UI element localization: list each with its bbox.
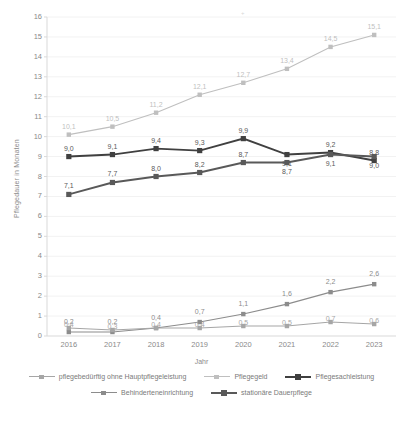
data-point-marker xyxy=(241,312,245,316)
data-label: 0,6 xyxy=(357,317,391,324)
data-label: 14,5 xyxy=(314,35,348,42)
data-label: 9,1 xyxy=(270,160,304,167)
data-label: 0,7 xyxy=(183,308,217,315)
data-label: 9,2 xyxy=(314,141,348,148)
legend: pflegebedürftig ohne Hauptpflegeleistung… xyxy=(0,372,403,404)
data-point-marker xyxy=(285,67,289,71)
data-point-marker xyxy=(66,192,71,197)
legend-marker-icon xyxy=(91,388,117,397)
legend-label: pflegebedürftig ohne Hauptpflegeleistung xyxy=(59,373,187,380)
data-point-marker xyxy=(197,148,202,153)
data-point-marker xyxy=(372,33,376,37)
data-label: 10,5 xyxy=(95,115,129,122)
legend-row-1: pflegebedürftig ohne Hauptpflegeleistung… xyxy=(0,372,403,381)
data-label: 2,2 xyxy=(314,278,348,285)
data-label: 8,0 xyxy=(139,165,173,172)
data-label: 0,4 xyxy=(52,321,86,328)
data-label: 15,1 xyxy=(357,23,391,30)
data-point-marker xyxy=(153,146,158,151)
data-label: 7,7 xyxy=(95,170,129,177)
data-label: 0,4 xyxy=(139,314,173,321)
data-point-marker xyxy=(110,152,115,157)
legend-item[interactable]: pflegebedürftig ohne Hauptpflegeleistung xyxy=(29,372,187,381)
data-label: 9,4 xyxy=(139,137,173,144)
data-label: 8,7 xyxy=(270,168,304,175)
legend-label: Pflegesachleistung xyxy=(315,373,374,380)
data-point-marker xyxy=(197,93,201,97)
data-label: 0,4 xyxy=(139,321,173,328)
data-label: 12,7 xyxy=(226,71,260,78)
data-point-marker xyxy=(154,111,158,115)
data-label: 0,5 xyxy=(270,319,304,326)
legend-label: Behinderteneinrichtung xyxy=(121,389,193,396)
data-label: 13,4 xyxy=(270,57,304,64)
data-label: 8,8 xyxy=(357,149,391,156)
data-label: 9,3 xyxy=(183,139,217,146)
data-label: 9,1 xyxy=(95,143,129,150)
legend-label: stationäre Dauerpflege xyxy=(241,389,312,396)
data-point-marker xyxy=(285,302,289,306)
data-label: 7,1 xyxy=(52,182,86,189)
data-label: 9,0 xyxy=(52,145,86,152)
data-point-marker xyxy=(66,154,71,159)
data-label: 9,9 xyxy=(226,127,260,134)
plot-area xyxy=(0,0,403,429)
data-point-marker xyxy=(110,124,114,128)
data-point-marker xyxy=(67,330,71,334)
data-point-marker xyxy=(328,45,332,49)
legend-item[interactable]: Behinderteneinrichtung xyxy=(91,388,193,397)
legend-item[interactable]: stationäre Dauerpflege xyxy=(211,388,312,397)
data-label: 0,3 xyxy=(95,323,129,330)
data-point-marker xyxy=(241,136,246,141)
data-point-marker xyxy=(110,180,115,185)
data-point-marker xyxy=(67,132,71,136)
data-label: 10,1 xyxy=(52,123,86,130)
data-label: 2,6 xyxy=(357,270,391,277)
legend-marker-icon xyxy=(285,372,311,381)
data-label: 9,1 xyxy=(314,160,348,167)
data-label: 0,7 xyxy=(314,315,348,322)
data-label: 1,1 xyxy=(226,300,260,307)
data-label: 0,5 xyxy=(226,319,260,326)
data-label: 8,2 xyxy=(183,161,217,168)
legend-item[interactable]: Pflegegeld xyxy=(204,372,267,381)
series-group xyxy=(66,33,377,334)
chart-root: Pflegedauer in Monaten Jahr + 1615141312… xyxy=(0,0,403,429)
data-label: 8,7 xyxy=(226,151,260,158)
legend-row-2: Behinderteneinrichtungstationäre Dauerpf… xyxy=(0,388,403,397)
data-label: 11,2 xyxy=(139,101,173,108)
legend-marker-icon xyxy=(204,372,230,381)
data-label: 0,4 xyxy=(183,321,217,328)
legend-item[interactable]: Pflegesachleistung xyxy=(285,372,374,381)
data-point-marker xyxy=(241,81,245,85)
data-point-marker xyxy=(328,152,333,157)
legend-label: Pflegegeld xyxy=(234,373,267,380)
data-point-marker xyxy=(372,282,376,286)
data-point-marker xyxy=(284,152,289,157)
data-point-marker xyxy=(153,174,158,179)
data-point-marker xyxy=(197,170,202,175)
data-point-marker xyxy=(241,160,246,165)
data-label: 12,1 xyxy=(183,83,217,90)
data-label: 9,0 xyxy=(357,162,391,169)
data-label: 1,6 xyxy=(270,290,304,297)
data-point-marker xyxy=(328,290,332,294)
legend-marker-icon xyxy=(211,388,237,397)
legend-marker-icon xyxy=(29,372,55,381)
